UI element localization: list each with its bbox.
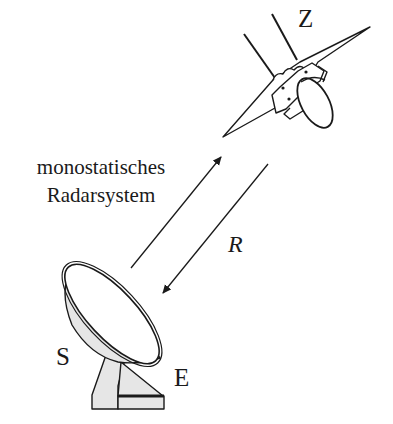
radar-antenna-icon: [47, 247, 178, 409]
aircraft-icon: [223, 14, 370, 137]
receiver-label: E: [174, 364, 189, 392]
target-label: Z: [298, 5, 313, 33]
caption-line-1: monostatisches: [22, 153, 180, 181]
caption: monostatisches Radarsystem: [22, 153, 180, 209]
sender-label: S: [56, 343, 70, 371]
caption-line-2: Radarsystem: [22, 181, 180, 209]
range-label: R: [228, 231, 243, 258]
